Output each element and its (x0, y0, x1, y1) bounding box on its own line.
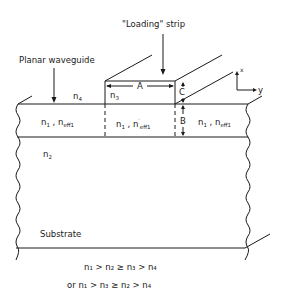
n3-label: n3 (110, 91, 119, 102)
planar-waveguide-label: Planar waveguide (19, 56, 95, 65)
substrate-label: Substrate (40, 230, 81, 239)
strip-back-left-edge (105, 55, 152, 81)
loading-strip-label: "Loading" strip (122, 20, 185, 29)
left-perspective-edge (18, 96, 32, 104)
strip-back-right-edge (175, 55, 222, 81)
region-right-label: n1 , neff1 (198, 118, 231, 129)
right-wavy-edge (245, 104, 250, 260)
dim-a-label: A (136, 82, 144, 91)
n2-label: n2 (43, 150, 52, 161)
right-perspective-edge (248, 96, 262, 104)
axis-y-label: y (258, 86, 263, 95)
axis-x-label: x (240, 67, 244, 73)
n4-label: n4 (73, 92, 82, 103)
region-center-label: n1 , n′eff1 (116, 118, 150, 131)
condition-2: or n₁ > n₃ ≥ n₂ > n₄ (67, 281, 151, 290)
waveguide-diagram (0, 0, 281, 295)
condition-1: n₁ > n₂ ≥ n₃ > n₄ (84, 263, 157, 272)
bottom-right-perspective-edge (245, 234, 270, 248)
dim-c-label: C (179, 88, 185, 97)
dim-b-label: B (180, 117, 186, 126)
region-left-label: n1 , neff1 (41, 118, 74, 129)
left-wavy-edge (16, 104, 20, 260)
